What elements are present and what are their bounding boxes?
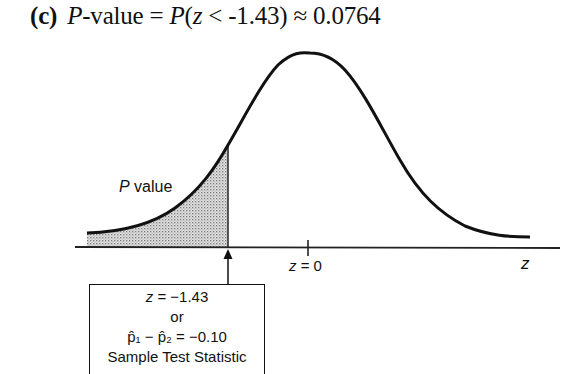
pvalue-label: P value [119, 178, 172, 196]
box-line-caption: Sample Test Statistic [90, 347, 264, 367]
box-line-or: or [90, 307, 264, 327]
box-line-diff: p̂₁ − p̂₂ = −0.10 [90, 327, 264, 347]
x-axis-label: z [521, 254, 530, 274]
test-statistic-box: z = −1.43 or p̂₁ − p̂₂ = −0.10 Sample Te… [89, 284, 265, 374]
arrow-head-icon [224, 249, 233, 259]
box-line-z: z = −1.43 [90, 287, 264, 307]
normal-curve-plot [0, 0, 583, 374]
x-axis [75, 247, 560, 248]
normal-curve [87, 53, 530, 237]
z0-label: z = 0 [289, 257, 322, 274]
